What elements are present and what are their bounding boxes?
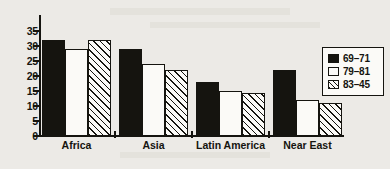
legend-item-79-81: 79–81: [328, 65, 379, 78]
bar-africa-83-45: [88, 40, 111, 136]
chart-legend: 69–7179–8183–45: [322, 47, 384, 96]
legend-swatch-icon: [328, 67, 339, 76]
bar-group: [42, 31, 111, 136]
x-axis-category-label: Near East: [253, 140, 362, 151]
bar-group: [196, 31, 265, 136]
y-axis-tick-label: 25: [0, 56, 38, 67]
scan-artifact: [150, 22, 320, 28]
legend-item-83-45: 83–45: [328, 78, 379, 91]
y-axis-tick-label: 5: [0, 116, 38, 127]
y-axis-tick-label: 30: [0, 41, 38, 52]
legend-swatch-icon: [328, 54, 339, 63]
legend-swatch-icon: [328, 80, 339, 89]
scan-artifact: [110, 8, 290, 15]
y-axis-tick-label: 20: [0, 71, 38, 82]
legend-item-label: 69–71: [343, 54, 370, 64]
bar-near-east-69-71: [273, 70, 296, 136]
bar-asia-69-71: [119, 49, 142, 136]
bar-latin-america-79-81: [219, 91, 242, 136]
plot-area: [40, 31, 340, 136]
legend-item-69-71: 69–71: [328, 52, 379, 65]
y-axis-tick-label: 10: [0, 101, 38, 112]
bar-latin-america-83-45: [242, 93, 265, 137]
bar-asia-79-81: [142, 64, 165, 136]
bar-near-east-83-45: [319, 103, 342, 136]
bar-africa-79-81: [65, 49, 88, 136]
scan-artifact: [120, 152, 270, 158]
y-axis-tick-label: 15: [0, 86, 38, 97]
bar-chart: 35302520151050 AfricaAsiaLatin AmericaNe…: [0, 0, 390, 169]
bar-near-east-79-81: [296, 100, 319, 136]
y-axis-tick-label: 35: [0, 26, 38, 37]
bar-africa-69-71: [42, 40, 65, 136]
legend-item-label: 83–45: [343, 80, 370, 90]
legend-item-label: 79–81: [343, 67, 370, 77]
bar-asia-83-45: [165, 70, 188, 136]
bar-group: [119, 31, 188, 136]
bar-latin-america-69-71: [196, 82, 219, 136]
